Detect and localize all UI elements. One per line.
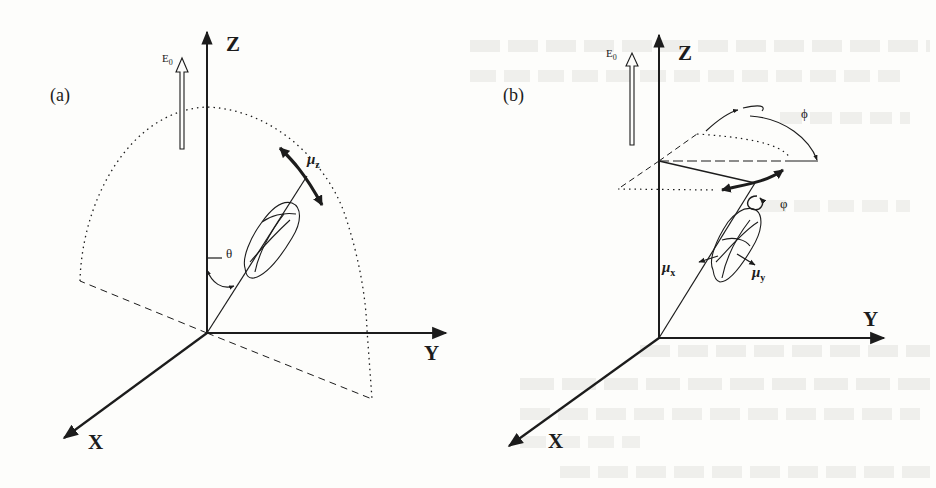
figure-canvas bbox=[0, 0, 936, 488]
e0-field-arrow-a bbox=[176, 58, 188, 149]
dashed-line-b bbox=[659, 134, 697, 161]
x-axis-a bbox=[64, 333, 207, 438]
mu-z-label: μz bbox=[307, 152, 320, 170]
molecule-a bbox=[244, 202, 299, 278]
z-axis-label-b: Z bbox=[678, 43, 692, 64]
mu-x-arrow bbox=[699, 256, 718, 262]
phi-arc bbox=[706, 110, 738, 131]
theta-arc bbox=[207, 270, 234, 287]
panel-b bbox=[509, 35, 884, 446]
y-axis-label-a: Y bbox=[424, 343, 439, 364]
rod-to-plane-b bbox=[659, 161, 755, 183]
mu-x-label: μx bbox=[662, 260, 675, 278]
e0-label-b: E0 bbox=[606, 48, 617, 62]
theta-label: θ bbox=[226, 247, 232, 260]
e0-label-a: E0 bbox=[162, 53, 173, 67]
panel-b-label: (b) bbox=[503, 86, 524, 104]
phi-label: ϕ bbox=[801, 107, 808, 120]
varphi-label: φ bbox=[780, 197, 788, 210]
panel-a bbox=[64, 32, 446, 438]
dashed-plane-line-a bbox=[207, 333, 372, 399]
mu-y-label: μy bbox=[752, 265, 765, 283]
z-axis-label-a: Z bbox=[226, 34, 240, 55]
dotted-arc-b bbox=[697, 134, 790, 158]
x-axis-label-b: X bbox=[548, 431, 563, 452]
dashed-line-b bbox=[618, 161, 659, 189]
e0-field-arrow-b bbox=[626, 53, 638, 145]
panel-a-label: (a) bbox=[50, 86, 70, 104]
spin-loop-b bbox=[748, 196, 763, 210]
dotted-line-b bbox=[618, 189, 716, 190]
x-axis-b bbox=[509, 338, 659, 446]
dashed-plane-line-a bbox=[80, 281, 207, 333]
x-axis-label-a: X bbox=[88, 432, 103, 453]
y-axis-label-b: Y bbox=[863, 309, 878, 330]
